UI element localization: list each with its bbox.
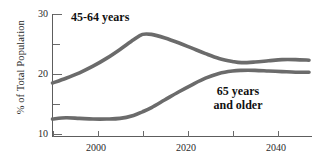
series-annotation-45-64-years: 45-64 years [71, 10, 129, 24]
y-tick-label-20: 20 [26, 69, 48, 79]
series-annotation-65-and-older-line1: 65 years [200, 84, 276, 98]
x-tick-label-2020: 2020 [164, 143, 208, 153]
x-tick-label-2040: 2040 [254, 143, 298, 153]
series-annotation-65-and-older-line2: and older [200, 98, 276, 112]
population-percent-line-chart: % of Total Population 30 20 10 2000 2020… [0, 0, 316, 164]
y-axis-title: % of Total Population [16, 7, 27, 127]
y-tick-label-10: 10 [26, 129, 48, 139]
x-tick-label-2000: 2000 [74, 143, 118, 153]
x-tick-marks [54, 131, 279, 137]
series-annotation-65-and-older: 65 years and older [200, 84, 276, 112]
y-tick-label-30: 30 [26, 9, 48, 19]
chart-plot-svg [0, 0, 316, 164]
series-line-45-64-years [53, 34, 310, 83]
